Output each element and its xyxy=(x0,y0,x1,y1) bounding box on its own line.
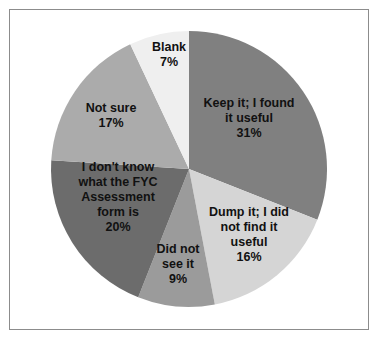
pie-chart: Keep it; I foundit useful31%Dump it; I d… xyxy=(0,0,377,339)
